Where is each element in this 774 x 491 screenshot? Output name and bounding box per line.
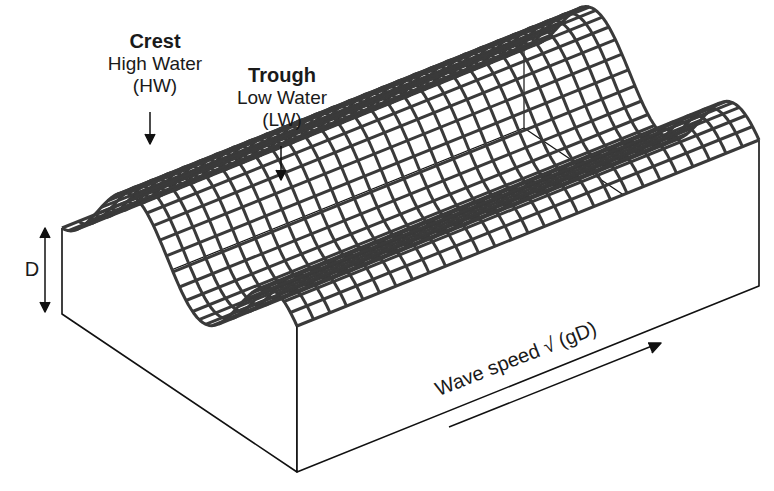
- crest-label: Crest High Water (HW): [95, 30, 215, 97]
- wave-speed-arrow-head: [648, 343, 661, 353]
- crest-line2: (HW): [133, 75, 177, 96]
- front-face: [62, 193, 297, 473]
- crest-line1: High Water: [108, 53, 202, 74]
- depth-label: D: [22, 258, 42, 280]
- trough-title: Trough: [248, 64, 316, 86]
- depth-arrow-head-top: [40, 228, 50, 238]
- trough-line2: (LW): [262, 109, 302, 130]
- trough-label: Trough Low Water (LW): [222, 64, 342, 131]
- trough-line1: Low Water: [237, 87, 327, 108]
- depth-arrow-head-bottom: [40, 302, 50, 312]
- crest-title: Crest: [129, 30, 180, 52]
- crest-arrow-head: [145, 134, 155, 144]
